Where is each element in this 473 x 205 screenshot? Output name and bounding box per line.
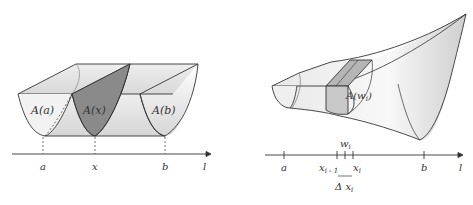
- tick-a-label: a: [40, 161, 46, 172]
- tick-b-label: b: [421, 162, 427, 173]
- diagram-canvas: A(a) A(x) A(b) a x b l A(wi): [0, 0, 473, 205]
- axis-l-label: l: [203, 161, 206, 172]
- arrow-right-icon: [458, 153, 463, 158]
- delta-x-label: Δ xi: [334, 181, 353, 194]
- area-a-label: A(a): [30, 104, 54, 117]
- right-solid: [272, 14, 466, 155]
- tick-a-label: a: [281, 162, 287, 173]
- left-axis: [12, 152, 211, 157]
- tick-x-label: x: [92, 161, 98, 172]
- arrow-right-icon: [206, 152, 211, 157]
- area-x-label: A(x): [82, 104, 106, 117]
- right-axis: [265, 151, 463, 176]
- area-b-label: A(b): [151, 104, 176, 117]
- tick-w-label: wi: [340, 138, 351, 151]
- volume-by-slicing-diagram: A(a) A(x) A(b) a x b l A(wi): [0, 0, 473, 205]
- tick-x-label: xi: [353, 162, 361, 175]
- axis-l-label: l: [459, 162, 462, 173]
- tick-x-prev-label: xi - 1: [319, 162, 338, 175]
- tick-b-label: b: [162, 161, 168, 172]
